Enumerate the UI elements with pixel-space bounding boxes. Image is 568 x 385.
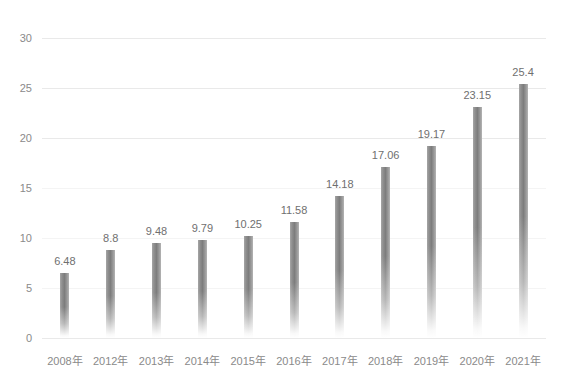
bar-group[interactable]: 25.4 (500, 38, 546, 338)
bar[interactable] (381, 167, 390, 338)
bar-group[interactable]: 10.25 (225, 38, 271, 338)
bar[interactable] (473, 107, 482, 339)
bar-value-label: 9.79 (192, 222, 213, 234)
bars-layer: 6.488.89.489.7910.2511.5814.1817.0619.17… (42, 38, 546, 338)
y-axis-tick-label: 0 (0, 332, 32, 344)
bar-value-label: 25.4 (512, 66, 533, 78)
bar[interactable] (335, 196, 344, 338)
bar-value-label: 8.8 (103, 232, 118, 244)
y-axis-tick-label: 15 (0, 182, 32, 194)
bar[interactable] (152, 243, 161, 338)
bar[interactable] (244, 236, 253, 339)
bar-group[interactable]: 23.15 (454, 38, 500, 338)
bar[interactable] (290, 222, 299, 338)
bar-value-label: 9.48 (146, 225, 167, 237)
gridline (42, 338, 546, 339)
bar-value-label: 23.15 (464, 89, 492, 101)
bar-value-label: 17.06 (372, 149, 400, 161)
bar[interactable] (60, 273, 69, 338)
y-axis-tick-label: 5 (0, 282, 32, 294)
y-axis-tick-label: 10 (0, 232, 32, 244)
bar-group[interactable]: 9.79 (179, 38, 225, 338)
bar[interactable] (198, 240, 207, 338)
x-axis-tick-label: 2021年 (493, 355, 553, 368)
bar[interactable] (519, 84, 528, 338)
bar-group[interactable]: 17.06 (363, 38, 409, 338)
bar-group[interactable]: 11.58 (271, 38, 317, 338)
y-axis-tick-label: 30 (0, 32, 32, 44)
bar[interactable] (106, 250, 115, 338)
x-axis: 2008年2012年2013年2014年2015年2016年2017年2018年… (42, 343, 546, 367)
bar-group[interactable]: 14.18 (317, 38, 363, 338)
bar-value-label: 6.48 (54, 255, 75, 267)
y-axis-tick-label: 25 (0, 82, 32, 94)
bar-value-label: 10.25 (234, 218, 262, 230)
bar-group[interactable]: 6.48 (42, 38, 88, 338)
bar-chart: 051015202530 6.488.89.489.7910.2511.5814… (0, 0, 568, 385)
bar[interactable] (427, 146, 436, 338)
bar-group[interactable]: 19.17 (408, 38, 454, 338)
bar-group[interactable]: 8.8 (88, 38, 134, 338)
bar-value-label: 11.58 (281, 204, 308, 216)
bar-group[interactable]: 9.48 (134, 38, 180, 338)
y-axis-tick-label: 20 (0, 132, 32, 144)
bar-value-label: 14.18 (326, 178, 354, 190)
bar-value-label: 19.17 (418, 128, 446, 140)
y-axis: 051015202530 (0, 0, 40, 385)
